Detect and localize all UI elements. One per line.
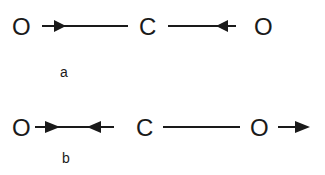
arrow-left-icon [87, 121, 101, 133]
row-a: O C O a [12, 13, 273, 80]
arrow-right-icon [295, 121, 310, 133]
row-b: O C O b [12, 114, 310, 166]
atom-carbon-b: C [136, 114, 153, 141]
atom-oxygen-right-b: O [250, 114, 269, 141]
arrow-right-icon [54, 20, 66, 32]
arrow-right-icon [45, 121, 60, 133]
atom-carbon-a: C [139, 13, 156, 40]
row-label-b: b [62, 150, 70, 166]
co2-vibration-diagram: O C O a O C O b [0, 0, 325, 175]
atom-oxygen-left-b: O [12, 114, 31, 141]
atom-oxygen-right-a: O [254, 13, 273, 40]
row-label-a: a [60, 64, 68, 80]
atom-oxygen-left-a: O [12, 13, 31, 40]
arrow-left-icon [216, 20, 228, 32]
